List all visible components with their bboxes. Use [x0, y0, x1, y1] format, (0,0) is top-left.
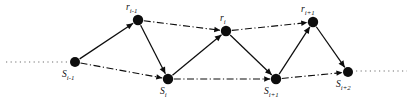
label-subscript: i-1	[67, 74, 75, 81]
edge-e-ri-rip1	[232, 23, 307, 31]
edge-e-sip1-rip1	[279, 27, 310, 74]
node-label-s-ip1: Si+1	[264, 87, 279, 99]
node-r-ip1[interactable]	[308, 17, 318, 27]
edge-e-rim1-si	[141, 25, 166, 74]
arrow-head	[339, 60, 345, 67]
label-subscript: i+1	[305, 9, 315, 16]
arrow-head	[264, 76, 270, 81]
node-label-r-im1: ri-1	[126, 3, 137, 15]
arrow-head	[336, 70, 342, 75]
node-r-im1[interactable]	[133, 15, 143, 25]
edge-e-ri-sip1	[230, 35, 272, 75]
diagram-canvas: Si-1ri-1SiriSi+1ri+1Si+2	[0, 0, 413, 109]
edge-e-sim1-si	[81, 63, 163, 78]
node-s-i[interactable]	[163, 74, 173, 84]
label-subscript: i+1	[269, 91, 279, 98]
edge-e-sip1-sip2	[282, 73, 343, 79]
node-label-r-i: ri	[220, 14, 226, 26]
node-label-s-im1: Si-1	[62, 70, 74, 82]
arrow-head	[126, 23, 133, 29]
label-subscript: i+2	[341, 84, 351, 91]
label-subscript: i-1	[130, 7, 138, 14]
arrow-head	[156, 74, 162, 79]
nodes-layer	[70, 15, 353, 84]
edge-e-rim1-ri	[144, 21, 220, 31]
arrow-head	[304, 27, 310, 34]
node-label-s-i: Si	[160, 87, 167, 99]
node-label-r-ip1: ri+1	[301, 5, 315, 17]
label-subscript: i	[224, 18, 226, 25]
edge-e-sim1-rim1	[80, 23, 134, 59]
node-r-i[interactable]	[221, 26, 231, 36]
node-s-im1[interactable]	[70, 57, 80, 67]
edges-layer	[80, 21, 345, 79]
arrow-head	[214, 27, 220, 32]
node-s-ip2[interactable]	[343, 67, 353, 77]
arrow-head	[301, 21, 307, 26]
diagram-svg	[0, 0, 413, 109]
edge-e-si-ri	[172, 35, 221, 76]
node-label-s-ip2: Si+2	[336, 80, 351, 92]
edge-e-rip1-sip2	[316, 27, 344, 68]
node-s-ip1[interactable]	[271, 74, 281, 84]
label-subscript: i	[165, 91, 167, 98]
